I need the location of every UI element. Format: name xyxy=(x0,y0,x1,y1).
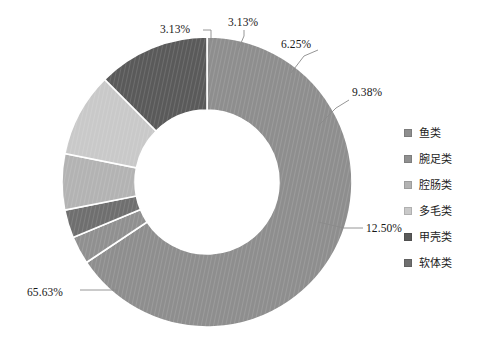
chart-legend: 鱼类腕足类腔肠类多毛类甲壳类软体类 xyxy=(404,120,480,276)
legend-item-label: 腔肠类 xyxy=(419,172,452,198)
legend-item-label: 软体类 xyxy=(419,250,452,276)
legend-item[interactable]: 腔肠类 xyxy=(404,172,480,198)
legend-item[interactable]: 甲壳类 xyxy=(404,224,480,250)
legend-swatch-icon xyxy=(404,233,412,241)
legend-item[interactable]: 鱼类 xyxy=(404,120,480,146)
slice-percentage-label: 12.50% xyxy=(366,222,402,234)
legend-item[interactable]: 软体类 xyxy=(404,250,480,276)
legend-swatch-icon xyxy=(404,129,412,137)
legend-item-label: 甲壳类 xyxy=(419,224,452,250)
legend-item[interactable]: 腕足类 xyxy=(404,146,480,172)
legend-swatch-icon xyxy=(404,207,412,215)
slice-percentage-label: 3.13% xyxy=(228,16,259,28)
legend-swatch-icon xyxy=(404,181,412,189)
legend-swatch-icon xyxy=(404,155,412,163)
slice-percentage-label: 9.38% xyxy=(352,86,383,98)
legend-item-label: 多毛类 xyxy=(419,198,452,224)
pie-slices-texture-overlay xyxy=(62,37,352,327)
legend-item-label: 鱼类 xyxy=(419,120,441,146)
slice-percentage-label: 65.63% xyxy=(27,286,63,298)
slice-percentage-label: 6.25% xyxy=(281,38,312,50)
slice-percentage-label: 3.13% xyxy=(160,23,191,35)
donut-chart-figure: 65.63%3.13%3.13%6.25%9.38%12.50% 鱼类腕足类腔肠… xyxy=(0,0,480,362)
legend-swatch-icon xyxy=(404,259,412,267)
legend-item[interactable]: 多毛类 xyxy=(404,198,480,224)
legend-item-label: 腕足类 xyxy=(419,146,452,172)
